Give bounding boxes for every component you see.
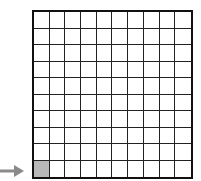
grid-cell — [34, 95, 50, 112]
grid-cell — [112, 45, 128, 62]
grid-cell — [144, 111, 160, 128]
grid-cell — [65, 45, 81, 62]
grid-cell — [34, 111, 50, 128]
grid-cell — [160, 29, 176, 46]
grid-cell — [50, 45, 66, 62]
grid-cell — [128, 45, 144, 62]
hundred-grid — [32, 10, 193, 179]
grid-cell — [65, 128, 81, 145]
grid-cell — [34, 144, 50, 161]
arrow-right-icon — [0, 164, 26, 178]
grid-cell — [160, 111, 176, 128]
grid-cell — [50, 12, 66, 29]
grid-cell — [175, 29, 191, 46]
grid-cell — [34, 12, 50, 29]
grid-cell — [50, 161, 66, 178]
grid-cell — [128, 62, 144, 79]
grid-cell — [175, 128, 191, 145]
grid-cell — [81, 12, 97, 29]
grid-cell — [160, 78, 176, 95]
grid-cell — [97, 144, 113, 161]
grid-cell — [128, 95, 144, 112]
grid-cell — [34, 29, 50, 46]
grid-cell — [34, 45, 50, 62]
grid-cell — [175, 45, 191, 62]
grid-cell — [65, 161, 81, 178]
grid-cell — [112, 12, 128, 29]
grid-cell — [97, 78, 113, 95]
grid-cell — [81, 62, 97, 79]
grid-cell — [160, 95, 176, 112]
grid-cell — [65, 12, 81, 29]
grid-cell — [144, 144, 160, 161]
grid-cell — [97, 12, 113, 29]
grid-cell — [65, 62, 81, 79]
grid-cell — [81, 29, 97, 46]
grid-cell — [34, 128, 50, 145]
grid-cell — [112, 62, 128, 79]
grid-cell — [128, 144, 144, 161]
grid-cell — [81, 111, 97, 128]
grid-cell — [112, 78, 128, 95]
grid-cell — [81, 161, 97, 178]
grid-cell — [34, 78, 50, 95]
grid-cell — [160, 45, 176, 62]
grid-cell — [65, 78, 81, 95]
grid-cell — [160, 62, 176, 79]
grid-cell — [112, 128, 128, 145]
grid-cell — [128, 29, 144, 46]
grid-cell — [175, 95, 191, 112]
grid-cell — [112, 144, 128, 161]
grid-cell — [50, 144, 66, 161]
grid-cell — [175, 78, 191, 95]
grid-cell — [65, 29, 81, 46]
grid-cell — [50, 111, 66, 128]
grid-cell — [65, 144, 81, 161]
grid-cell — [50, 95, 66, 112]
grid-cell — [128, 128, 144, 145]
grid-cell — [97, 45, 113, 62]
grid-cell — [144, 128, 160, 145]
grid-cell — [144, 45, 160, 62]
grid-cell — [160, 144, 176, 161]
grid-cell — [160, 128, 176, 145]
grid-cell — [97, 161, 113, 178]
grid-cell — [160, 12, 176, 29]
grid-cell — [50, 29, 66, 46]
grid-cell — [81, 144, 97, 161]
grid-cell-shaded — [34, 161, 50, 178]
grid-cell — [81, 95, 97, 112]
grid-cell — [175, 62, 191, 79]
grid-cell — [97, 111, 113, 128]
grid-cell — [50, 62, 66, 79]
grid-cell — [81, 78, 97, 95]
grid-cell — [128, 12, 144, 29]
grid-cell — [81, 128, 97, 145]
grid-cell — [34, 62, 50, 79]
grid-cell — [97, 95, 113, 112]
grid-cell — [144, 29, 160, 46]
grid-cell — [175, 144, 191, 161]
grid-cell — [112, 161, 128, 178]
grid-cell — [97, 62, 113, 79]
grid-cell — [65, 95, 81, 112]
grid-cell — [144, 78, 160, 95]
grid-cell — [144, 12, 160, 29]
grid-cell — [144, 62, 160, 79]
grid-cell — [81, 45, 97, 62]
grid-cell — [112, 29, 128, 46]
grid-cell — [97, 128, 113, 145]
grid-cell — [128, 78, 144, 95]
grid-cell — [128, 111, 144, 128]
grid-cell — [112, 95, 128, 112]
grid-cell — [160, 161, 176, 178]
grid-cell — [50, 78, 66, 95]
grid-cell — [175, 111, 191, 128]
grid-cell — [128, 161, 144, 178]
grid-cell — [144, 161, 160, 178]
grid-cell — [175, 161, 191, 178]
grid-cell — [144, 95, 160, 112]
grid-cell — [50, 128, 66, 145]
grid-cell — [65, 111, 81, 128]
grid-cell — [97, 29, 113, 46]
